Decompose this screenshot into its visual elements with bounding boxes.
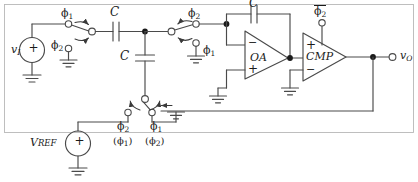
comparator-noninverting-input-sign: + bbox=[306, 39, 316, 51]
capacitor-shunt-label: C bbox=[120, 50, 129, 62]
capacitor-series bbox=[113, 22, 145, 41]
phase-label-phi2-bar: ϕ2 bbox=[314, 5, 326, 19]
mid-node bbox=[142, 29, 168, 55]
phase-label-phi2-switch-input: ϕ2 bbox=[51, 40, 63, 53]
phase-label-bottom-left-alternate: (ϕ1) bbox=[113, 136, 132, 148]
opamp-noninverting-input-sign: + bbox=[248, 63, 258, 75]
opamp-inverting-input-sign: − bbox=[248, 37, 257, 48]
phase-label-bottom-left-primary: ϕ2 bbox=[117, 121, 129, 134]
input-voltage-source bbox=[20, 24, 67, 82]
comparator-inverting-input-sign: − bbox=[306, 64, 315, 75]
input-source-polarity: + bbox=[29, 42, 39, 54]
phase-label-bottom-right-alternate: (ϕ2) bbox=[145, 136, 164, 148]
capacitor-series-label: C bbox=[110, 6, 119, 18]
opamp-plus-ground bbox=[210, 88, 227, 103]
schematic-svg bbox=[0, 0, 418, 182]
phase-label-phi1-switch-mid: ϕ1 bbox=[203, 45, 215, 58]
switch-mid bbox=[168, 21, 224, 63]
capacitor-shunt bbox=[136, 55, 155, 96]
switch-input bbox=[60, 21, 113, 67]
comparator-label: CMP bbox=[306, 51, 333, 62]
reference-source-label: VREF bbox=[30, 137, 56, 148]
phase-label-bottom-right-primary: ϕ1 bbox=[150, 121, 162, 134]
switch-bottom bbox=[78, 96, 185, 131]
phase-label-phi2-switch-mid: ϕ2 bbox=[188, 8, 200, 21]
input-source-label: vI bbox=[11, 44, 20, 57]
capacitor-feedback-label: C bbox=[249, 0, 258, 9]
phase-label-phi1-switch-input: ϕ1 bbox=[61, 8, 73, 21]
circuit-diagram-canvas: vI + ϕ1 ϕ2 C C ϕ2 ϕ1 C OA − + CMP + − ϕ2… bbox=[0, 0, 418, 182]
reference-source-polarity: + bbox=[75, 135, 85, 147]
output-terminal-label: vO bbox=[400, 50, 412, 63]
